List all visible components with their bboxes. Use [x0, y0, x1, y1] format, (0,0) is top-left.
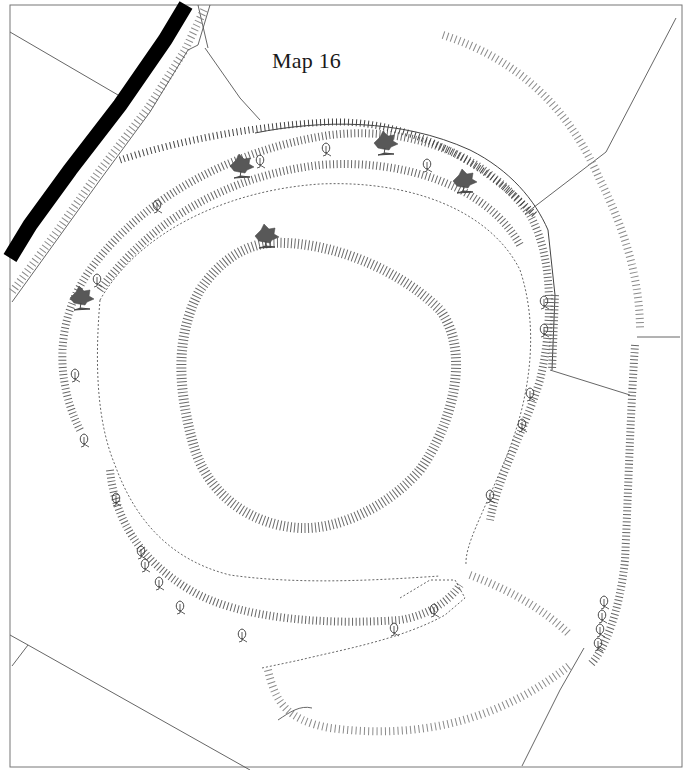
evergreen-tree-icon	[453, 169, 477, 193]
black-road	[10, 5, 186, 258]
deciduous-tree-icon	[176, 601, 185, 614]
deciduous-tree-icon	[598, 610, 607, 623]
deciduous-tree-icon	[155, 577, 164, 590]
southeast-bank	[470, 575, 570, 635]
east-scarp	[552, 295, 635, 665]
deciduous-tree-icon	[256, 155, 265, 168]
deciduous-tree-icon	[540, 296, 549, 309]
deciduous-tree-icon	[238, 629, 247, 642]
deciduous-tree-icon	[71, 369, 80, 382]
outer-rampart	[62, 122, 555, 622]
deciduous-tree-icon	[322, 143, 331, 156]
inner-rampart	[181, 243, 456, 528]
deciduous-tree-icon	[80, 434, 89, 447]
deciduous-tree-icon	[141, 559, 150, 572]
evergreen-tree-icon	[255, 224, 279, 248]
hillfort-map	[0, 0, 688, 770]
deciduous-tree-icon	[596, 624, 605, 637]
deciduous-trees	[71, 143, 609, 651]
road-verge-hachure	[12, 10, 204, 292]
evergreen-trees	[70, 131, 477, 310]
deciduous-tree-icon	[600, 596, 609, 609]
southern-annex	[262, 580, 570, 731]
evergreen-tree-icon	[70, 286, 94, 310]
deciduous-tree-icon	[423, 159, 432, 172]
inner-ditch-line	[100, 184, 531, 565]
deciduous-tree-icon	[390, 623, 399, 636]
